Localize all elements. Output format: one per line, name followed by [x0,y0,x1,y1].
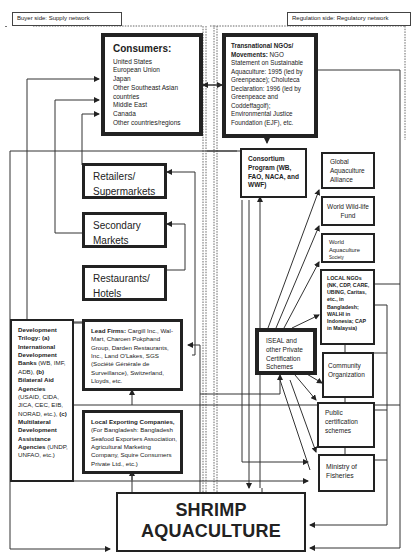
consumers-item: Middle East [113,101,195,110]
community-organization-box: Community Organization [322,352,374,398]
local-exporting-title: Local Exporting Companies, [91,418,175,425]
consumers-item: countries [113,93,195,102]
was-label: World Aquaculture [329,239,370,255]
diagram-canvas: Buyer side: Supply network Regulation si… [0,0,417,555]
public-cert-label: Public certification schemes [325,409,370,435]
buyer-side-label: Buyer side: Supply network [17,15,90,21]
consumers-title: Consumers: [113,42,195,56]
secondary-markets-label: Secondary Markets [93,219,153,248]
was-box: World Aquaculture Society [321,233,375,263]
development-trilogy-box: Development Trilogy: (a) International D… [10,319,74,482]
shrimp-aquaculture-label: SHRIMP AQUACULTURE [118,500,304,542]
regulation-side-tag: Regulation side: Regulatory network [287,12,411,26]
consumers-item: United States [113,58,195,67]
local-exporting-text: (For Bangladesh: Bangladesh Seafood Expo… [91,426,177,466]
iseal-box: ISEAL and other Private Certification Sc… [255,328,317,375]
development-text-b: (USAID, CIDA, JICA, CEC, EIB, NORAD, etc… [18,393,63,417]
consumers-box: Consumers: United States European Union … [101,33,203,136]
retailers-label: Retailers/ Supermarkets [93,170,164,199]
local-ngos-label: LOCAL NGOs (NK, CDP, CARE, UBING, Carita… [327,275,370,332]
consumers-item: Other countries/regions [113,119,195,128]
lead-firms-title: Lead Firms: [91,327,126,334]
iseal-label: ISEAL and other Private Certification Sc… [266,337,310,372]
secondary-markets-box: Secondary Markets [82,212,167,248]
retailers-box: Retailers/ Supermarkets [82,163,167,199]
local-ngos-box: LOCAL NGOs (NK, CDP, CARE, UBING, Carita… [320,269,375,345]
consumers-item: Other Southeast Asian [113,84,195,93]
consumers-item: European Union [113,66,195,75]
was-label-small: Society [329,255,370,261]
ministry-label: Ministry of Fisheries [326,462,370,480]
gaa-box: Global Aquaculture Alliance [321,152,375,189]
lead-firms-box: Lead Firms: Cargill Inc., Wal-Mart, Char… [82,319,183,391]
gaa-label: Global Aquaculture Alliance [330,158,370,184]
restaurants-label: Restaurants/ Hotels [93,272,165,301]
buyer-side-tag: Buyer side: Supply network [12,12,122,26]
ministry-box: Ministry of Fisheries [318,454,375,492]
regulation-side-label: Regulation side: Regulatory network [292,15,388,21]
shrimp-aquaculture-box: SHRIMP AQUACULTURE [116,492,306,552]
transnational-text: NGO Statement on Sustainable Aquaculture… [231,51,303,126]
restaurants-box: Restaurants/ Hotels [82,265,167,301]
community-label: Community Organization [328,362,369,380]
consumers-item: Japan [113,75,195,84]
wwf-label: World Wild-life Fund [327,203,369,221]
consumers-item: Canada [113,110,195,119]
transnational-ngos-box: Transnational NGOs/ Movements: NGO State… [222,33,318,138]
lead-firms-text: Cargill Inc., Wal-Mart, Charoen Pokphand… [91,327,173,384]
wwf-box: World Wild-life Fund [321,196,375,226]
local-exporting-box: Local Exporting Companies, (For Banglade… [82,410,183,474]
consortium-box: Consortium Program (WB, FAO, NACA, and W… [240,148,307,198]
consortium-label: Consortium Program (WB, FAO, NACA, and W… [248,155,302,190]
public-certification-box: Public certification schemes [317,402,375,448]
